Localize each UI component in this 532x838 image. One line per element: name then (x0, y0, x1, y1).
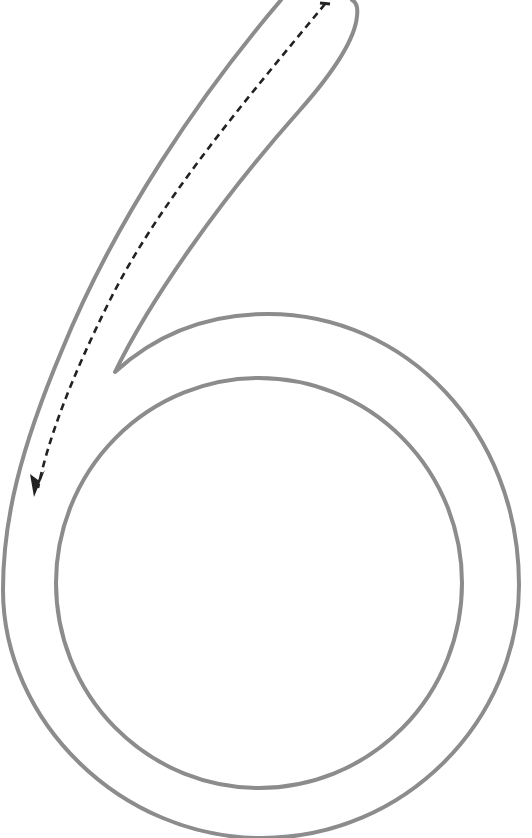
arrow-down-left-icon (30, 470, 45, 497)
tracing-guide-dashed-line (38, 4, 325, 488)
tracing-worksheet: 6 (0, 0, 532, 838)
numeral-six-inner-counter (56, 378, 462, 788)
guide-start-tick-icon (320, 3, 330, 4)
numeral-six-outer-outline (3, 0, 519, 838)
